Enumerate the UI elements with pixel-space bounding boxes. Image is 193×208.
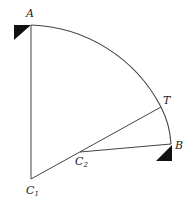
- label-c1: C1: [26, 184, 39, 198]
- label-c2: C2: [75, 155, 88, 169]
- arc-t-b: [161, 107, 171, 144]
- radius-c2-b: [80, 144, 171, 152]
- support-a-icon: [14, 25, 31, 40]
- label-a: A: [25, 7, 34, 20]
- label-t: T: [163, 94, 172, 107]
- compound-curve-diagram: A T B C2 C1: [0, 0, 193, 208]
- support-b-icon: [156, 145, 172, 161]
- label-b: B: [174, 139, 183, 152]
- diagram-canvas: A T B C2 C1: [0, 0, 193, 208]
- radius-c1-t: [31, 107, 161, 179]
- arc-a-t: [31, 25, 161, 107]
